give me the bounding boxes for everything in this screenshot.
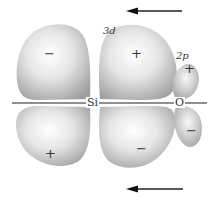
label-atom-si: Si — [86, 97, 99, 108]
label-si-3d: 3d — [103, 26, 116, 36]
label-o-2p: 2p — [176, 51, 189, 61]
label-atom-o: O — [174, 97, 185, 108]
sign-si-lower-left: + — [45, 147, 56, 160]
sign-si-upper-left: − — [44, 47, 55, 60]
sign-si-upper-right: + — [131, 47, 142, 60]
sign-o-lower: − — [186, 124, 197, 137]
bottom-arrow-icon — [126, 186, 183, 193]
top-arrow-icon — [126, 8, 182, 15]
sign-o-upper: + — [184, 62, 195, 75]
lobe-si-lower-right — [99, 106, 175, 168]
lobe-si-upper-left — [17, 24, 91, 100]
sign-si-lower-right: − — [136, 142, 147, 155]
